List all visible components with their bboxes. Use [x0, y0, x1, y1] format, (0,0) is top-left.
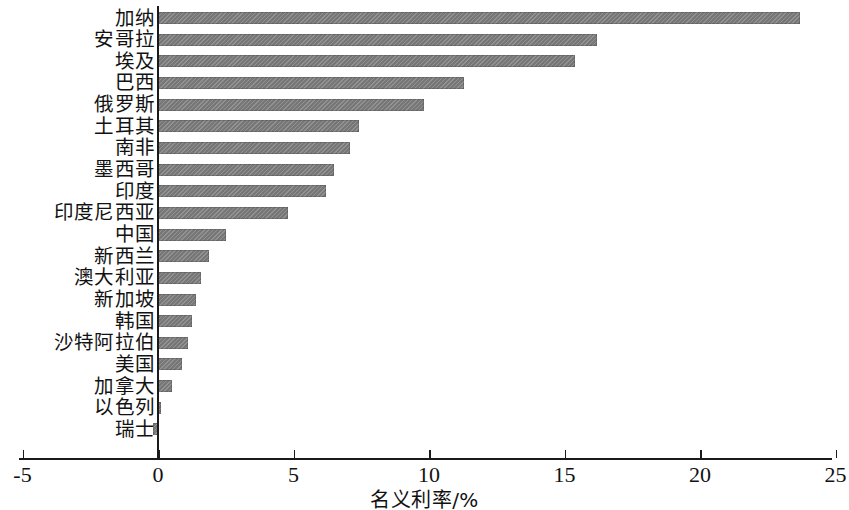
bar: [158, 185, 326, 197]
category-label: 中国: [115, 224, 155, 246]
x-tick: [23, 450, 25, 458]
bar: [158, 358, 182, 370]
plot-area: 加纳安哥拉埃及巴西俄罗斯土耳其南非墨西哥印度印度尼西亚中国新西兰澳大利亚新加坡韩…: [0, 0, 849, 460]
x-tick: [565, 450, 567, 458]
category-label: 美国: [115, 354, 155, 376]
chart-row: 加纳: [0, 8, 849, 30]
category-label: 沙特阿拉伯: [54, 332, 155, 354]
bar: [158, 380, 172, 392]
category-label: 土耳其: [94, 116, 155, 138]
category-label: 南非: [115, 137, 155, 159]
chart-row: 印度尼西亚: [0, 202, 849, 224]
bar: [158, 315, 192, 327]
chart-row: 墨西哥: [0, 159, 849, 181]
category-label: 巴西: [115, 72, 155, 94]
category-label: 以色列: [94, 397, 155, 419]
chart-row: 巴西: [0, 72, 849, 94]
chart-row: 韩国: [0, 311, 849, 333]
bar: [158, 294, 196, 306]
bar: [158, 142, 350, 154]
chart-row: 印度: [0, 181, 849, 203]
category-label: 埃及: [115, 51, 155, 73]
chart-row: 美国: [0, 354, 849, 376]
category-label: 加纳: [115, 8, 155, 30]
bar: [158, 99, 424, 111]
category-label: 墨西哥: [94, 159, 155, 181]
category-label: 加拿大: [94, 376, 155, 398]
bar: [158, 55, 575, 67]
chart-row: 澳大利亚: [0, 267, 849, 289]
chart-row: 中国: [0, 224, 849, 246]
chart-row: 瑞士: [0, 419, 849, 441]
chart-row: 加拿大: [0, 376, 849, 398]
bar: [158, 250, 209, 262]
bar: [158, 77, 464, 89]
category-label: 新加坡: [94, 289, 155, 311]
category-label: 印度: [115, 181, 155, 203]
x-tick: [429, 450, 431, 458]
bar: [158, 229, 226, 241]
bar-chart: 加纳安哥拉埃及巴西俄罗斯土耳其南非墨西哥印度印度尼西亚中国新西兰澳大利亚新加坡韩…: [0, 0, 849, 510]
x-tick: [294, 450, 296, 458]
category-label: 澳大利亚: [74, 267, 155, 289]
chart-row: 俄罗斯: [0, 94, 849, 116]
y-axis-line: [157, 6, 159, 458]
bar: [158, 207, 288, 219]
category-label: 安哥拉: [94, 29, 155, 51]
chart-row: 南非: [0, 137, 849, 159]
category-label: 瑞士: [115, 419, 155, 441]
bar: [158, 34, 597, 46]
chart-row: 土耳其: [0, 116, 849, 138]
chart-row: 埃及: [0, 51, 849, 73]
bar: [158, 120, 359, 132]
x-axis-line: [19, 458, 832, 460]
chart-row: 沙特阿拉伯: [0, 332, 849, 354]
x-axis-title: 名义利率/%: [0, 484, 849, 510]
x-tick: [158, 450, 160, 458]
category-label: 印度尼西亚: [54, 202, 155, 224]
bar: [158, 164, 334, 176]
bar: [158, 12, 800, 24]
chart-row: 新西兰: [0, 246, 849, 268]
chart-row: 安哥拉: [0, 29, 849, 51]
category-label: 韩国: [115, 311, 155, 333]
chart-row: 新加坡: [0, 289, 849, 311]
bar: [158, 337, 188, 349]
x-tick: [700, 450, 702, 458]
chart-row: 以色列: [0, 397, 849, 419]
category-label: 新西兰: [94, 246, 155, 268]
category-label: 俄罗斯: [94, 94, 155, 116]
x-tick: [836, 450, 838, 458]
bar: [158, 272, 201, 284]
